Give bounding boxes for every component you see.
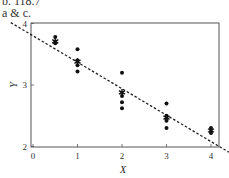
x-tick-label: 3 bbox=[164, 151, 169, 161]
data-point bbox=[120, 71, 124, 75]
x-tick-label: 1 bbox=[75, 151, 80, 161]
scatter-chart: 01234234 X Y bbox=[0, 0, 229, 178]
observation-points bbox=[53, 35, 213, 135]
axis-ticks bbox=[31, 24, 211, 148]
y-axis-label: Y bbox=[8, 81, 19, 88]
plot-frame bbox=[31, 23, 219, 147]
x-tick-label: 4 bbox=[209, 151, 214, 161]
data-point bbox=[76, 47, 80, 51]
x-axis-label: X bbox=[119, 164, 127, 175]
data-point bbox=[120, 106, 124, 110]
data-point bbox=[165, 101, 169, 105]
data-point bbox=[76, 69, 80, 73]
mean-star-marker bbox=[163, 114, 169, 121]
data-point bbox=[120, 100, 124, 104]
y-tick-label: 4 bbox=[23, 19, 28, 29]
regression-line bbox=[11, 23, 229, 153]
y-tick-label: 3 bbox=[23, 80, 28, 90]
mean-star-markers bbox=[52, 38, 214, 134]
mean-star-marker bbox=[208, 127, 214, 134]
mean-star-marker bbox=[52, 38, 58, 45]
data-point bbox=[165, 126, 169, 130]
y-tick-label: 2 bbox=[23, 142, 28, 152]
mean-star-marker bbox=[74, 58, 80, 65]
x-tick-label: 2 bbox=[120, 151, 125, 161]
axis-tick-labels: 01234234 bbox=[23, 19, 214, 162]
x-tick-label: 0 bbox=[31, 151, 36, 161]
